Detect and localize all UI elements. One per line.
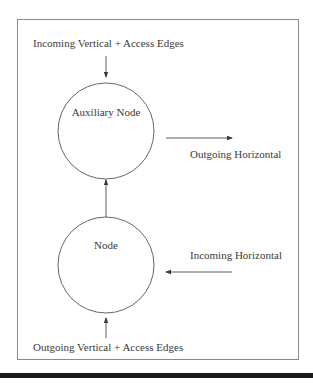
- node-label: Node: [94, 239, 118, 251]
- incoming-horizontal-label: Incoming Horizontal: [190, 249, 282, 261]
- node-circle: [58, 217, 154, 313]
- outgoing-vertical-label: Outgoing Vertical + Access Edges: [33, 341, 183, 353]
- auxiliary-node-circle: [58, 83, 154, 179]
- outgoing-horizontal-label: Outgoing Horizontal: [190, 148, 281, 160]
- auxiliary-node-label: Auxiliary Node: [72, 106, 141, 118]
- page-divider-bar: [0, 373, 313, 378]
- node: Node: [58, 217, 154, 313]
- incoming-vertical-label: Incoming Vertical + Access Edges: [33, 37, 184, 49]
- auxiliary-node: Auxiliary Node: [58, 83, 154, 179]
- node-diagram: Incoming Vertical + Access Edges Auxilia…: [0, 0, 313, 385]
